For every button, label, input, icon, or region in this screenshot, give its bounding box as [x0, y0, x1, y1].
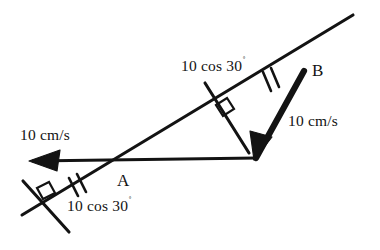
- horizontal-baseline: [33, 158, 257, 161]
- label-ten-cos-thirty-top: 10 cos 30˚: [181, 58, 246, 74]
- label-point-a: A: [117, 172, 129, 189]
- velocity-components-diagram: 10 cos 30˚ 10 cos 30˚ 10 cm/s 10 cm/s A …: [0, 0, 380, 250]
- label-cos-bottom-text: 10 cos 30: [67, 197, 128, 214]
- arrow-head-left-icon: [29, 150, 60, 171]
- perpendicular-line-top: [205, 83, 249, 153]
- label-point-b: B: [312, 62, 324, 79]
- degree-symbol-top: ˚: [243, 56, 246, 66]
- degree-symbol-bottom: ˚: [129, 196, 132, 206]
- tick-mark-top-second: [271, 68, 279, 87]
- label-cos-top-text: 10 cos 30: [181, 57, 242, 74]
- label-speed-right: 10 cm/s: [288, 113, 338, 129]
- label-speed-left: 10 cm/s: [20, 127, 70, 143]
- label-ten-cos-thirty-bottom: 10 cos 30˚: [67, 198, 132, 214]
- perpendicular-line-bottom: [23, 181, 69, 232]
- tick-mark-top-first: [263, 72, 271, 91]
